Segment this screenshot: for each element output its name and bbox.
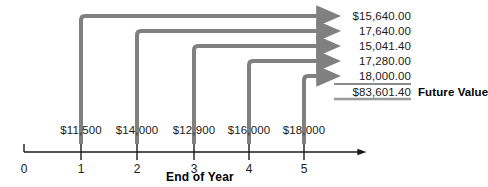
future-value-row-2: 17,640.00 <box>311 25 411 37</box>
cash-flow-label-year-5: $18,000 <box>264 124 344 136</box>
future-value-row-4: 17,280.00 <box>311 55 411 67</box>
future-value-caption: Future Value <box>418 86 488 98</box>
axis-caption: End of Year <box>140 170 260 184</box>
future-value-row-3: 15,041.40 <box>311 40 411 52</box>
axis-tick-label-1: 1 <box>61 162 101 176</box>
future-value-total: $83,601.40 <box>311 86 411 98</box>
axis-tick-label-5: 5 <box>284 162 324 176</box>
future-value-row-5: 18,000.00 <box>311 70 411 82</box>
axis-tick-label-0: 0 <box>4 162 44 176</box>
future-value-row-1: $15,640.00 <box>311 10 411 22</box>
